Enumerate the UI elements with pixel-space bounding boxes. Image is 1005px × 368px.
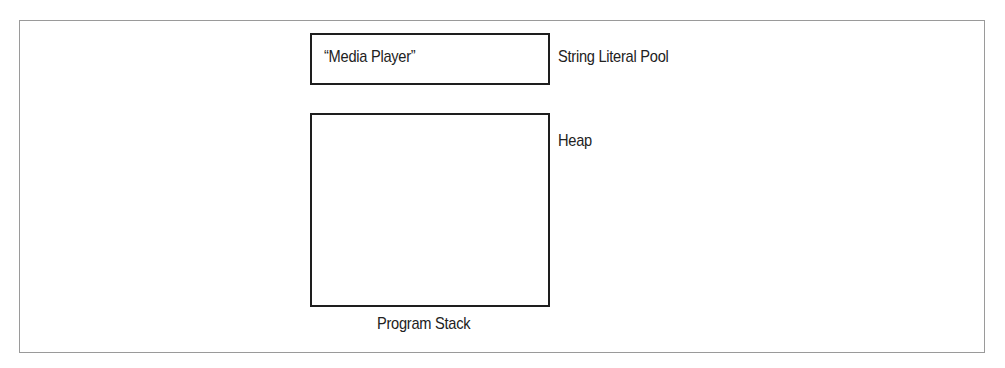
string-literal-pool-label: String Literal Pool bbox=[558, 47, 668, 67]
string-literal-pool-box: “Media Player” bbox=[310, 33, 550, 85]
heap-box bbox=[310, 113, 550, 307]
string-literal-value: “Media Player” bbox=[324, 47, 415, 67]
program-stack-label: Program Stack bbox=[377, 314, 470, 334]
heap-label: Heap bbox=[558, 131, 592, 151]
